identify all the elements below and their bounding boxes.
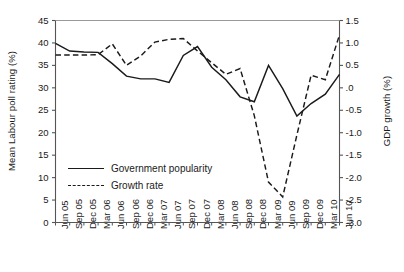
chart-legend: Government popularity Growth rate bbox=[68, 160, 212, 194]
legend-item-growth-rate: Growth rate bbox=[68, 177, 212, 194]
legend-label: Government popularity bbox=[111, 163, 212, 174]
series-line-1 bbox=[56, 43, 340, 116]
chart-figure: Mean Labour poll rating (%) GDP growth (… bbox=[0, 0, 404, 272]
legend-label: Growth rate bbox=[111, 180, 163, 191]
legend-line-solid-icon bbox=[68, 164, 104, 174]
plot-area bbox=[0, 0, 404, 272]
legend-line-dashed-icon bbox=[68, 181, 104, 191]
legend-item-government-popularity: Government popularity bbox=[68, 160, 212, 177]
